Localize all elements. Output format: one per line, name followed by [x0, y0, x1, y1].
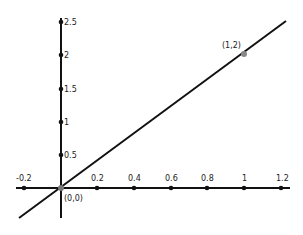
x-tick-label: 0.6 [165, 174, 178, 183]
point-label-origin: (0,0) [64, 194, 83, 203]
y-tick-label: 0.5 [64, 151, 77, 160]
x-tick-label: 0.4 [128, 174, 141, 183]
x-tick-label: -0.2 [16, 174, 32, 183]
point-origin [58, 185, 64, 191]
point-1-2 [241, 51, 247, 57]
y-tick-label: 2 [64, 51, 69, 60]
x-tick-label: 1.2 [276, 174, 289, 183]
point-label-1-2: (1,2) [222, 41, 241, 50]
y-tick-label: 2.5 [64, 18, 77, 27]
y-tick-label: 1 [64, 118, 69, 127]
x-tick-label: 1 [242, 174, 247, 183]
x-tick-label: 0.8 [201, 174, 214, 183]
chart-canvas: -0.2 0.2 0.4 0.6 0.8 1 1.2 0.5 1 1.5 2 2… [0, 0, 303, 235]
y-tick-label: 1.5 [64, 85, 77, 94]
x-tick-label: 0.2 [91, 174, 104, 183]
